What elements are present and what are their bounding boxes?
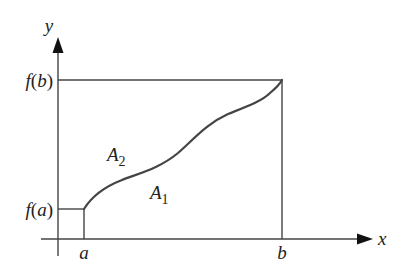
region-label-A2: A2 — [105, 144, 126, 169]
tick-label-fa: f(a) — [26, 199, 53, 221]
tick-label-fb: f(b) — [26, 70, 53, 92]
tick-label-b: b — [277, 242, 287, 263]
region-label-A1: A1 — [148, 182, 169, 207]
x-axis-label: x — [377, 228, 387, 249]
y-axis-arrow-icon — [53, 37, 64, 53]
x-axis-arrow-icon — [357, 234, 373, 245]
y-axis-label: y — [43, 15, 54, 36]
function-area-diagram: y x a b f(b) f(a) A2 A1 — [0, 0, 396, 273]
tick-label-a: a — [79, 242, 89, 263]
